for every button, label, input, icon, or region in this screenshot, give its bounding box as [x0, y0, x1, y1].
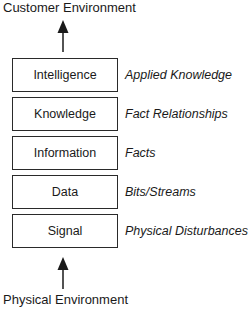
layer-box-signal: Signal [12, 214, 118, 248]
layer-description-intelligence: Applied Knowledge [125, 58, 232, 92]
layer-box-information: Information [12, 136, 118, 170]
layer-name: Information [34, 146, 97, 160]
layer-description-data: Bits/Streams [125, 175, 196, 209]
layer-box-knowledge: Knowledge [12, 97, 118, 131]
layer-description-information: Facts [125, 136, 156, 170]
layer-name: Intelligence [33, 68, 96, 82]
physical-environment-label: Physical Environment [3, 292, 128, 307]
layer-name: Signal [48, 224, 83, 238]
layer-description-signal: Physical Disturbances [125, 214, 248, 248]
layer-box-intelligence: Intelligence [12, 58, 118, 92]
up-arrow-icon [57, 257, 69, 289]
layer-box-data: Data [12, 175, 118, 209]
customer-environment-label: Customer Environment [3, 0, 136, 15]
up-arrow-icon [57, 20, 69, 52]
layer-description-knowledge: Fact Relationships [125, 97, 228, 131]
layer-name: Knowledge [34, 107, 96, 121]
layer-name: Data [52, 185, 78, 199]
